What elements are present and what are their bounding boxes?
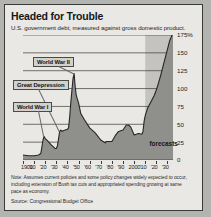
- x-tick-label: '80: [106, 164, 113, 170]
- x-tick-label: '60: [84, 164, 91, 170]
- x-tick-mark: [79, 161, 80, 164]
- x-tick-mark: [134, 161, 135, 164]
- y-tick-label: 25: [177, 139, 184, 146]
- x-tick-label: '50: [73, 164, 80, 170]
- x-tick-mark: [23, 161, 24, 164]
- x-tick-label: '20: [151, 164, 158, 170]
- chart-subtitle: U.S. government debt, measured against g…: [11, 24, 185, 31]
- y-tick-label: 100: [177, 85, 187, 92]
- x-tick-mark: [123, 161, 124, 164]
- x-tick-label: '70: [95, 164, 102, 170]
- x-tick-label: '10: [29, 164, 36, 170]
- x-tick-mark: [90, 161, 91, 164]
- y-tick-label: 175%: [177, 31, 193, 38]
- x-tick-label: '90: [118, 164, 125, 170]
- callout-world-war-ii: World War II: [33, 57, 74, 67]
- x-tick-mark: [101, 161, 102, 164]
- x-tick-label: '30: [162, 164, 169, 170]
- callout-great-depression: Great Depression: [13, 80, 69, 90]
- x-tick-label: '40: [62, 164, 69, 170]
- x-tick-label: '30: [51, 164, 58, 170]
- y-tick-label: 0: [177, 156, 180, 163]
- y-tick-label: 150: [177, 49, 187, 56]
- x-tick-mark: [67, 161, 68, 164]
- chart-figure: Headed for Trouble U.S. government debt,…: [4, 4, 203, 211]
- x-tick-label: 2000: [129, 164, 141, 170]
- x-axis: 1900'10'20'30'40'50'60'70'80'902000'10'2…: [23, 161, 173, 172]
- x-tick-mark: [45, 161, 46, 164]
- chart-source: Source: Congressional Budget Office: [11, 198, 93, 204]
- y-tick-label: 125: [177, 67, 187, 74]
- y-tick-label: 50: [177, 121, 184, 128]
- x-tick-mark: [34, 161, 35, 164]
- x-tick-label: '10: [140, 164, 147, 170]
- chart-note: Note: Assumes current policies and some …: [11, 175, 187, 196]
- chart-title: Headed for Trouble: [11, 10, 103, 22]
- x-tick-mark: [156, 161, 157, 164]
- y-tick-label: 75: [177, 103, 184, 110]
- x-tick-mark: [112, 161, 113, 164]
- x-tick-mark: [56, 161, 57, 164]
- x-tick-label: '20: [40, 164, 47, 170]
- x-tick-mark: [145, 161, 146, 164]
- forecasts-label: forecasts: [149, 140, 177, 147]
- x-tick-mark: [167, 161, 168, 164]
- callout-world-war-i: World War I: [13, 102, 52, 112]
